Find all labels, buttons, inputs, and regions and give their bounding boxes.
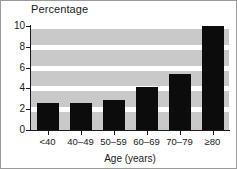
bar (70, 103, 92, 130)
y-tick-label: 6 (1, 63, 25, 73)
x-tick-mark (147, 131, 148, 135)
y-axis-line (30, 25, 31, 131)
y-tick-label: 0 (1, 125, 25, 135)
gridline (31, 26, 229, 29)
y-tick-mark (26, 47, 30, 48)
x-tick-mark (81, 131, 82, 135)
y-tick-mark (26, 26, 30, 27)
x-tick-mark (114, 131, 115, 135)
x-tick-mark (180, 131, 181, 135)
y-tick-mark (26, 130, 30, 131)
x-tick-label: 50–59 (97, 137, 130, 147)
bar (103, 100, 125, 130)
x-tick-mark (213, 131, 214, 135)
x-tick-label: ≥80 (196, 137, 229, 147)
x-tick-label: 70–79 (163, 137, 196, 147)
y-tick-mark (26, 88, 30, 89)
chart-title: Percentage (31, 3, 88, 15)
y-tick-mark (26, 109, 30, 110)
gridline (31, 45, 229, 50)
x-axis-line (30, 130, 230, 131)
x-axis-label: Age (years) (31, 153, 229, 164)
y-tick-label: 2 (1, 104, 25, 114)
y-tick-label: 4 (1, 83, 25, 93)
gridline (31, 86, 229, 91)
y-tick-label: 8 (1, 42, 25, 52)
bar-chart-figure: Percentage 0246810 <4040–4950–5960–6970–… (0, 0, 237, 169)
bar (169, 74, 191, 130)
y-tick-mark (26, 68, 30, 69)
x-tick-label: <40 (31, 137, 64, 147)
gridline (31, 107, 229, 112)
y-tick-label: 10 (1, 21, 25, 31)
x-tick-mark (48, 131, 49, 135)
x-tick-label: 40–49 (64, 137, 97, 147)
bar (37, 103, 59, 130)
plot-area (31, 26, 229, 130)
gridline (31, 66, 229, 71)
x-tick-label: 60–69 (130, 137, 163, 147)
bar (136, 87, 158, 130)
bar (202, 26, 224, 130)
